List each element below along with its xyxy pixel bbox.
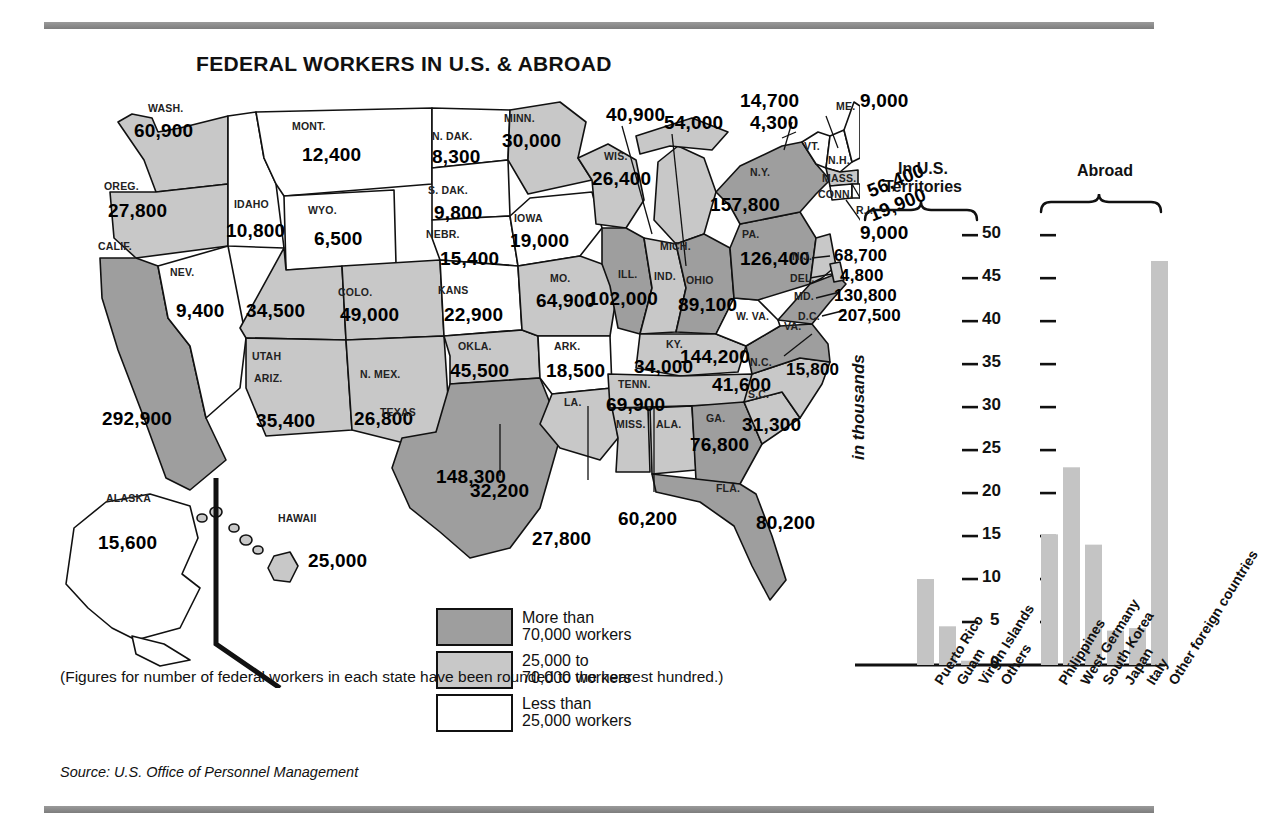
legend-high-line1: More than (522, 609, 631, 626)
source-note: Source: U.S. Office of Personnel Managem… (60, 764, 358, 780)
chart-y-tick-20: 20 (982, 481, 1001, 501)
rounding-note: (Figures for number of federal workers i… (60, 666, 723, 688)
chart-y-tick-35: 35 (982, 352, 1001, 372)
top-rule (44, 22, 1154, 29)
chart-y-tick-45: 45 (982, 266, 1001, 286)
chart-y-tick-50: 50 (982, 223, 1001, 243)
chart-y-tick-40: 40 (982, 309, 1001, 329)
bar-0 (917, 579, 934, 665)
chart-y-tick-5: 5 (990, 610, 999, 630)
chart-canvas (855, 160, 1185, 820)
legend-low-line2: 25,000 workers (522, 712, 631, 729)
legend-swatch-high (436, 608, 513, 646)
us-map: WASH. 60,900 OREG. 27,800 CALIF. 292,900… (40, 88, 860, 688)
legend-row-high: More than 70,000 workers (436, 608, 631, 646)
bar-5 (1063, 467, 1080, 665)
state-value-me: 9,000 (860, 90, 909, 112)
bar-4 (1041, 534, 1058, 665)
map-shapes (40, 88, 860, 688)
bar-chart: In U.S. Territories Abroad in thousands … (855, 160, 1185, 820)
page-title: FEDERAL WORKERS IN U.S. & ABROAD (196, 52, 612, 76)
legend-text-low: Less than 25,000 workers (522, 694, 631, 729)
chart-y-tick-30: 30 (982, 395, 1001, 415)
bar-9 (1151, 261, 1168, 665)
chart-y-tick-25: 25 (982, 438, 1001, 458)
legend-high-line2: 70,000 workers (522, 626, 631, 643)
chart-y-tick-15: 15 (982, 524, 1001, 544)
legend-swatch-low (436, 694, 513, 732)
legend-text-high: More than 70,000 workers (522, 608, 631, 643)
legend-low-line1: Less than (522, 695, 631, 712)
legend-row-low: Less than 25,000 workers (436, 694, 631, 732)
chart-y-tick-10: 10 (982, 567, 1001, 587)
